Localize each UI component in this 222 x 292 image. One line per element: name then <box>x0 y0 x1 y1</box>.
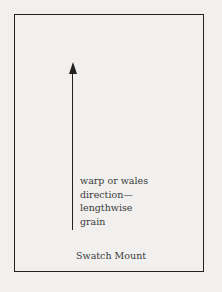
label-line: lengthwise <box>80 201 148 215</box>
caption: Swatch Mount <box>76 250 146 261</box>
label-line: warp or wales <box>80 174 148 188</box>
swatch-mount-frame <box>14 14 204 272</box>
label-line: direction— <box>80 188 148 202</box>
grain-direction-label: warp or wales direction— lengthwise grai… <box>80 174 148 228</box>
grain-arrow-line <box>72 70 73 230</box>
label-line: grain <box>80 215 148 229</box>
